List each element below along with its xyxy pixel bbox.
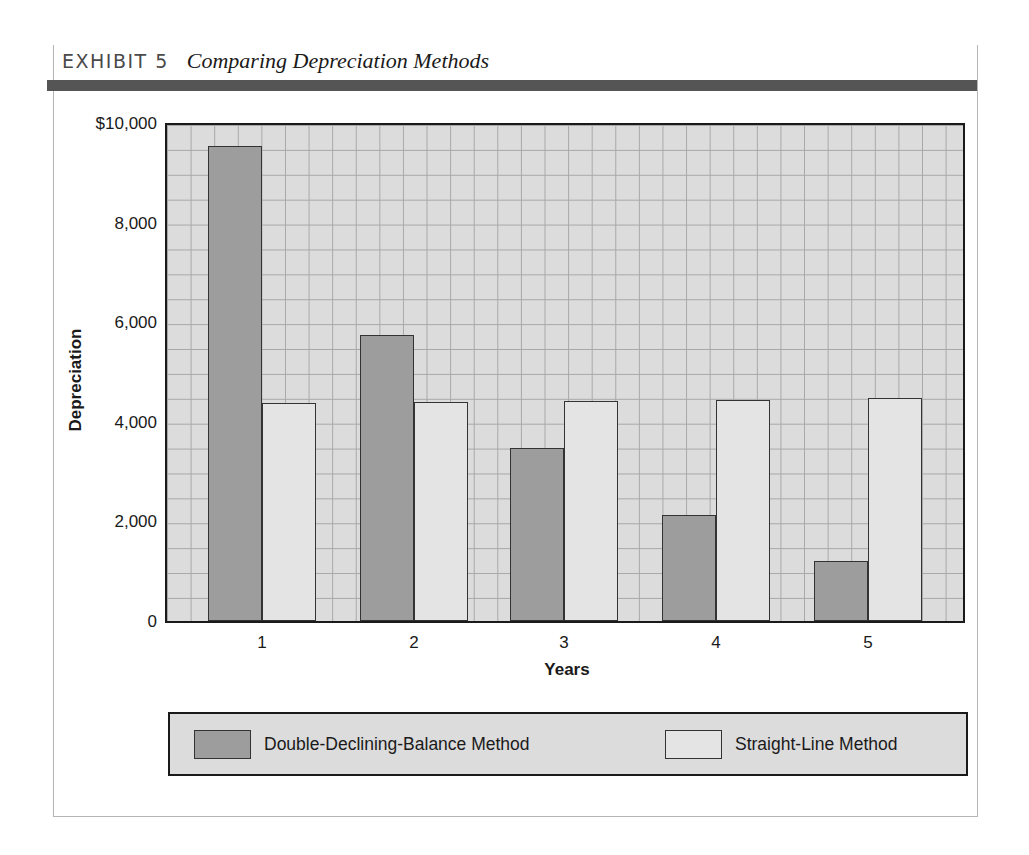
bar-ddb-year-4 xyxy=(662,515,716,621)
x-tick-label: 2 xyxy=(409,633,418,653)
bar-sl-year-4 xyxy=(716,400,770,621)
legend-item-ddb: Double-Declining-Balance Method xyxy=(194,714,530,774)
legend-label-ddb: Double-Declining-Balance Method xyxy=(264,734,530,755)
y-tick-label: $10,000 xyxy=(96,114,157,134)
bar-ddb-year-3 xyxy=(510,448,564,621)
x-axis-label: Years xyxy=(544,660,589,680)
legend: Double-Declining-Balance Method Straight… xyxy=(168,712,968,776)
y-tick-label: 6,000 xyxy=(114,313,157,333)
y-tick-label: 2,000 xyxy=(114,512,157,532)
bar-sl-year-5 xyxy=(868,398,922,621)
bar-ddb-year-5 xyxy=(814,561,868,621)
x-tick-label: 5 xyxy=(863,633,872,653)
x-tick-label: 3 xyxy=(559,633,568,653)
legend-item-sl: Straight-Line Method xyxy=(665,714,897,774)
plot-area xyxy=(165,123,965,623)
legend-label-sl: Straight-Line Method xyxy=(735,734,897,755)
header-divider-bar xyxy=(47,80,977,91)
bar-ddb-year-1 xyxy=(208,146,262,621)
y-tick-label: 4,000 xyxy=(114,413,157,433)
chart-title: Comparing Depreciation Methods xyxy=(187,48,489,74)
x-tick-label: 4 xyxy=(711,633,720,653)
bar-ddb-year-2 xyxy=(360,335,414,621)
exhibit-label: EXHIBIT 5 xyxy=(62,50,169,72)
exhibit-header: EXHIBIT 5 Comparing Depreciation Methods xyxy=(62,48,489,78)
legend-swatch-ddb xyxy=(194,730,251,759)
y-tick-label: 0 xyxy=(148,612,157,632)
bar-sl-year-1 xyxy=(262,403,316,621)
bar-sl-year-3 xyxy=(564,401,618,621)
y-tick-label: 8,000 xyxy=(114,214,157,234)
y-axis-label: Depreciation xyxy=(66,329,86,432)
bar-sl-year-2 xyxy=(414,402,468,621)
x-tick-label: 1 xyxy=(257,633,266,653)
legend-swatch-sl xyxy=(665,730,722,759)
